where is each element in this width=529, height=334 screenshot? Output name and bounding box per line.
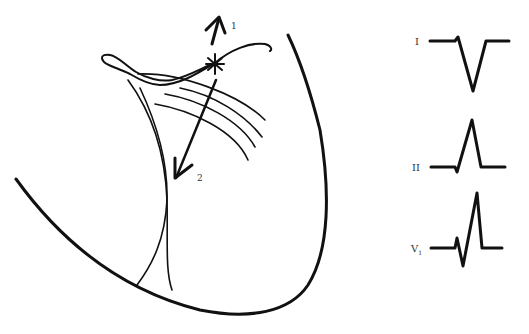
vector-1-label: 1 (231, 21, 237, 31)
cardiac-diagram: 1 2 I II V1 (0, 0, 529, 334)
vector-1-arrow: 1 (206, 17, 237, 44)
lead-II-label: II (412, 162, 420, 173)
ecg-lead-I: I (415, 36, 509, 91)
lead-V1-label: V1 (410, 243, 422, 256)
vector-2-arrow: 2 (175, 80, 216, 183)
ecg-lead-V1: V1 (410, 193, 502, 266)
lead-I-label: I (415, 36, 419, 47)
conduction-system (102, 44, 271, 290)
ecg-lead-II: II (412, 120, 505, 173)
vector-2-label: 2 (197, 173, 203, 183)
